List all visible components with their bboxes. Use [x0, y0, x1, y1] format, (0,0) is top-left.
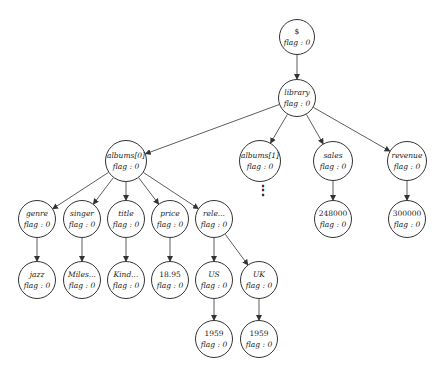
node-label: singer [70, 208, 94, 219]
edge-arrow [306, 114, 323, 143]
ellipsis-icon: ⋮ [256, 188, 270, 193]
node-flag: flag : 0 [394, 161, 420, 172]
node-flag: flag : 0 [69, 280, 95, 291]
node-flag: flag : 0 [320, 219, 346, 230]
node-flag: flag : 0 [24, 280, 50, 291]
node-flag: flag : 0 [24, 219, 50, 230]
tree-node-albums0: albums[0]flag : 0 [105, 140, 147, 182]
node-label: library [284, 87, 309, 98]
node-label: Kind... [114, 269, 139, 280]
node-flag: flag : 0 [201, 219, 227, 230]
node-flag: flag : 0 [113, 161, 139, 172]
edge-arrow [271, 114, 288, 143]
node-label: sales [323, 150, 342, 161]
node-label: albums[0] [107, 150, 145, 161]
tree-node-us_val: 1959flag : 0 [195, 320, 233, 358]
tree-node-singer_val: Miles...flag : 0 [63, 261, 101, 299]
node-label: jazz [30, 269, 45, 280]
node-label: US [208, 269, 219, 280]
node-flag: flag : 0 [113, 280, 139, 291]
tree-node-sales_val: 248000flag : 0 [314, 200, 352, 238]
node-label: 248000 [319, 208, 348, 219]
node-flag: flag : 0 [157, 280, 183, 291]
tree-diagram: $flag : 0libraryflag : 0albums[0]flag : … [0, 0, 443, 369]
tree-node-revenue: revenueflag : 0 [387, 141, 427, 181]
tree-node-price: priceflag : 0 [151, 200, 189, 238]
node-label: UK [253, 269, 265, 280]
node-label: price [160, 208, 179, 219]
node-label: 1959 [249, 328, 268, 339]
node-flag: flag : 0 [394, 219, 420, 230]
tree-node-genre_val: jazzflag : 0 [18, 261, 56, 299]
tree-node-title: titleflag : 0 [107, 200, 145, 238]
edges-layer [0, 0, 443, 369]
node-label: 18.95 [159, 269, 180, 280]
node-flag: flag : 0 [320, 161, 346, 172]
node-label: 300000 [393, 208, 422, 219]
node-label: revenue [392, 150, 423, 161]
edge-arrow [139, 178, 159, 204]
node-flag: flag : 0 [113, 219, 139, 230]
node-flag: flag : 0 [247, 161, 273, 172]
tree-node-albums1: albums[1]flag : 0 [239, 140, 281, 182]
tree-node-us: USflag : 0 [195, 261, 233, 299]
node-label: 1959 [204, 328, 223, 339]
node-flag: flag : 0 [246, 339, 272, 350]
node-label: $ [295, 26, 300, 37]
tree-node-genre: genreflag : 0 [18, 200, 56, 238]
edge-arrow [225, 234, 247, 264]
tree-node-singer: singerflag : 0 [63, 200, 101, 238]
tree-node-sales: salesflag : 0 [313, 141, 353, 181]
node-flag: flag : 0 [69, 219, 95, 230]
node-label: title [118, 208, 133, 219]
node-label: rele... [203, 208, 225, 219]
node-flag: flag : 0 [201, 280, 227, 291]
edge-arrow [93, 178, 113, 204]
node-flag: flag : 0 [201, 339, 227, 350]
node-flag: flag : 0 [246, 280, 272, 291]
tree-node-title_val: Kind...flag : 0 [107, 261, 145, 299]
tree-node-root: $flag : 0 [279, 19, 315, 55]
tree-node-revenue_val: 300000flag : 0 [388, 200, 426, 238]
tree-node-library: libraryflag : 0 [278, 79, 316, 117]
node-label: albums[1] [241, 150, 279, 161]
node-label: Miles... [68, 269, 96, 280]
tree-node-uk: UKflag : 0 [240, 261, 278, 299]
node-label: genre [26, 208, 48, 219]
node-flag: flag : 0 [157, 219, 183, 230]
node-flag: flag : 0 [284, 37, 310, 48]
tree-node-uk_val: 1959flag : 0 [240, 320, 278, 358]
node-flag: flag : 0 [284, 98, 310, 109]
tree-node-price_val: 18.95flag : 0 [151, 261, 189, 299]
tree-node-release: rele...flag : 0 [195, 200, 233, 238]
